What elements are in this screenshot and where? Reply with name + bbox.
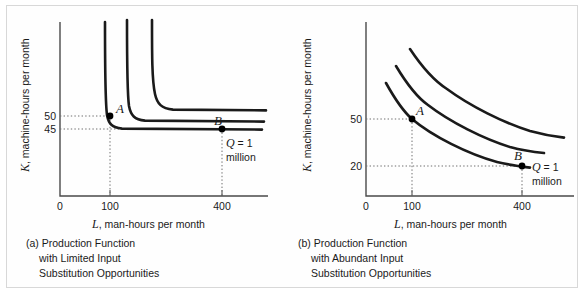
panel-a-label-a: A	[116, 101, 124, 117]
panel-a-xtick-label-100: 100	[96, 200, 124, 213]
panel-a-caption-line1: (a) Production Function	[26, 237, 135, 249]
panel-b-ytick-label-20: 20	[330, 160, 362, 173]
panel-b-x-axis-title: L, man-hours per month	[394, 217, 507, 232]
panel-a-point-a	[107, 113, 114, 120]
panel-a-x-axis-title: L, man-hours per month	[92, 217, 205, 232]
panel-a-x-axis-var: L	[92, 217, 99, 231]
panel-b-x-axis-rest: , man-hours per month	[401, 218, 507, 230]
panel-a-xtick-label-400: 400	[208, 200, 236, 213]
panel-b-y-axis-title: K, machine-hours per month	[300, 39, 315, 173]
panel-b-point-a	[409, 116, 416, 123]
panel-b-ytick-label-50: 50	[330, 113, 362, 126]
panel-b-label-b: B	[514, 148, 522, 164]
panel-a-q-var: Q	[226, 136, 235, 150]
panel-a-caption-line2: with Limited Input	[26, 251, 159, 266]
panel-a-isoquant-3	[152, 20, 266, 110]
panel-b-q-var: Q	[532, 160, 541, 174]
panel-b-abundant-substitution: K, machine-hours per month 50 20 0 100 4…	[292, 0, 584, 295]
panel-a-q-rest: = 1	[235, 137, 253, 149]
panel-a-q-annotation: Q = 1 million	[226, 136, 256, 163]
panel-a-label-b: B	[214, 113, 222, 129]
panel-b-caption: (b) Production Function with Abundant In…	[298, 236, 431, 282]
isoquant-figure: K, machine-hours per month 50 45 0 100 4…	[0, 0, 584, 295]
panel-b-isoquant-3	[410, 49, 564, 138]
panel-b-y-axis-rest: , machine-hours per month	[301, 39, 313, 164]
panel-a-y-axis-title: K, machine-hours per month	[18, 39, 33, 173]
panel-b-caption-line1: (b) Production Function	[298, 237, 407, 249]
panel-b-q-line2: million	[532, 175, 562, 187]
panel-b-q-rest: = 1	[541, 161, 559, 173]
panel-b-caption-line3: Substitution Opportunities	[298, 266, 431, 281]
panel-a-caption: (a) Production Function with Limited Inp…	[26, 236, 159, 282]
panel-a-q-line2: million	[226, 151, 256, 163]
panel-b-xtick-label-400: 400	[508, 200, 536, 213]
panel-a-y-axis-rest: , machine-hours per month	[19, 39, 31, 164]
panel-b-xtick-label-0: 0	[352, 200, 380, 213]
panel-b-caption-line2: with Abundant Input	[298, 251, 431, 266]
panel-a-ytick-label-45: 45	[24, 123, 56, 136]
panel-b-y-axis-var: K	[300, 164, 314, 172]
panel-b-label-a: A	[416, 103, 424, 119]
panel-b-q-annotation: Q = 1 million	[532, 160, 562, 187]
panel-b-x-axis-var: L	[394, 217, 401, 231]
panel-a-ytick-label-50: 50	[24, 110, 56, 123]
panel-a-x-axis-rest: , man-hours per month	[99, 218, 205, 230]
panel-a-caption-line3: Substitution Opportunities	[26, 266, 159, 281]
panel-a-isoquant-2	[127, 20, 264, 122]
panel-b-xtick-label-100: 100	[398, 200, 426, 213]
panel-a-xtick-label-0: 0	[46, 200, 74, 213]
panel-a-limited-substitution: K, machine-hours per month 50 45 0 100 4…	[0, 0, 292, 295]
panel-a-y-axis-var: K	[18, 164, 32, 172]
